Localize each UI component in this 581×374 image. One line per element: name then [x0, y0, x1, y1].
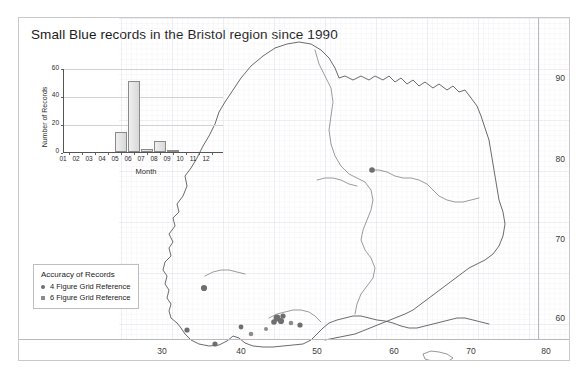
record-point	[289, 321, 294, 326]
bar-month-07	[141, 149, 153, 152]
map-y-axis-line	[538, 18, 539, 340]
bar-chart-x-tick-07: 07	[135, 155, 147, 162]
map-x-tick-70: 70	[466, 346, 475, 356]
record-point	[271, 319, 277, 325]
map-legend: Accuracy of Records 4 Figure Grid Refere…	[33, 264, 139, 309]
bar-chart-x-tick-02: 02	[70, 155, 82, 162]
record-point	[264, 327, 268, 331]
map-x-tick-40: 40	[236, 346, 245, 356]
record-point	[184, 327, 189, 332]
bar-chart-x-tick-01: 01	[57, 155, 69, 162]
gridline-60	[63, 69, 223, 70]
map-figure-panel: Small Blue records in the Bristol region…	[18, 17, 570, 361]
map-x-tick-30: 30	[157, 346, 166, 356]
record-point	[239, 325, 244, 330]
bar-chart-x-tick-12: 12	[200, 155, 212, 162]
map-x-tick-50: 50	[312, 346, 321, 356]
bar-chart-x-tick-05: 05	[109, 155, 121, 162]
bar-chart-plot-area	[63, 69, 223, 153]
bar-chart-y-axis	[63, 69, 64, 153]
bar-chart-x-tick-06: 06	[122, 155, 134, 162]
record-point	[369, 167, 375, 173]
record-point	[280, 313, 285, 318]
bar-chart-y-tick-20: 20	[45, 119, 59, 126]
bar-month-09	[167, 150, 179, 152]
legend-item-label: 4 Figure Grid Reference	[50, 282, 130, 291]
record-point	[297, 322, 302, 327]
map-y-tick-70: 70	[556, 234, 565, 244]
bar-chart-y-tick-60: 60	[45, 64, 59, 71]
map-y-tick-80: 80	[556, 154, 565, 164]
circle-dot-icon	[41, 285, 45, 289]
record-point	[249, 332, 254, 337]
gridline-40	[63, 97, 223, 98]
bar-chart-x-tick-10: 10	[174, 155, 186, 162]
bar-chart-y-tick-40: 40	[45, 91, 59, 98]
bar-chart-x-tick-08: 08	[148, 155, 160, 162]
legend-item-label: 6 Figure Grid Reference	[50, 293, 130, 302]
map-detail-shapes	[423, 351, 453, 361]
bar-chart-y-tick-0: 0	[45, 147, 59, 154]
map-x-tick-80: 80	[541, 346, 550, 356]
bar-chart-x-axis-label: Month	[61, 167, 231, 176]
map-x-axis-line	[19, 339, 570, 340]
bar-month-05	[115, 132, 127, 152]
gridline-20	[63, 125, 223, 126]
bar-month-08	[154, 141, 166, 152]
legend-item-4-figure: 4 Figure Grid Reference	[41, 282, 130, 291]
bar-chart-x-tick-03: 03	[83, 155, 95, 162]
map-y-tick-90: 90	[556, 73, 565, 83]
record-point	[278, 318, 284, 324]
bar-chart-x-tick-09: 09	[161, 155, 173, 162]
bar-month-06	[128, 81, 140, 152]
legend-title: Accuracy of Records	[41, 270, 130, 279]
monthly-records-bar-chart: Number of Records Month 0 20 40 60	[41, 63, 231, 181]
map-x-tick-60: 60	[389, 346, 398, 356]
legend-item-6-figure: 6 Figure Grid Reference	[41, 293, 130, 302]
map-y-tick-60: 60	[556, 313, 565, 323]
square-dot-icon	[41, 296, 45, 300]
record-point	[201, 285, 207, 291]
bar-chart-x-tick-04: 04	[96, 155, 108, 162]
record-point	[212, 341, 217, 346]
bar-chart-x-tick-11: 11	[187, 155, 199, 162]
figure-root: Small Blue records in the Bristol region…	[0, 0, 581, 374]
